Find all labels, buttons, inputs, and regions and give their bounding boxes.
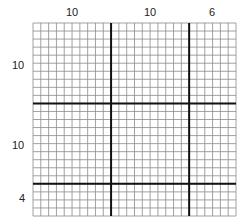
area-model-grid [0,0,249,224]
